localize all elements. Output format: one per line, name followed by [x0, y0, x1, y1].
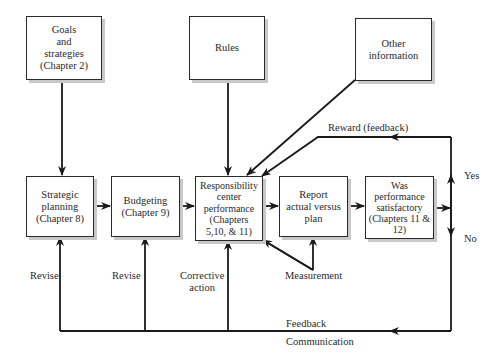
reward-feedback-label: Reward (feedback) [328, 122, 408, 134]
feedback-label: Feedback [286, 318, 326, 330]
communication-label: Communication [286, 336, 354, 348]
corrective-action-label: Corrective action [180, 270, 224, 294]
goals-box: Goals and strategies (Chapter 2) [26, 16, 102, 80]
control-process-diagram: Goals and strategies (Chapter 2) Rules O… [0, 0, 498, 363]
measurement-label: Measurement [285, 270, 342, 282]
rules-box: Rules [189, 16, 265, 80]
budgeting-box: Budgeting (Chapter 9) [111, 176, 180, 237]
revise-label-1: Revise [30, 270, 59, 282]
responsibility-center-box: Responsibility center performance (Chapt… [195, 176, 263, 241]
other-information-box: Other information [355, 18, 432, 81]
yes-label: Yes [464, 170, 479, 182]
arrow-reward-feedback [262, 137, 451, 176]
performance-satisfactory-box: Was performance satisfactory (Chapters 1… [365, 176, 434, 239]
performance-satisfactory-label: Was performance satisfactory (Chapters 1… [367, 180, 432, 235]
strategic-planning-box: Strategic planning (Chapter 8) [26, 176, 94, 237]
report-box: Report actual versus plan [279, 176, 348, 237]
no-label: No [464, 233, 477, 245]
revise-label-2: Revise [112, 270, 141, 282]
